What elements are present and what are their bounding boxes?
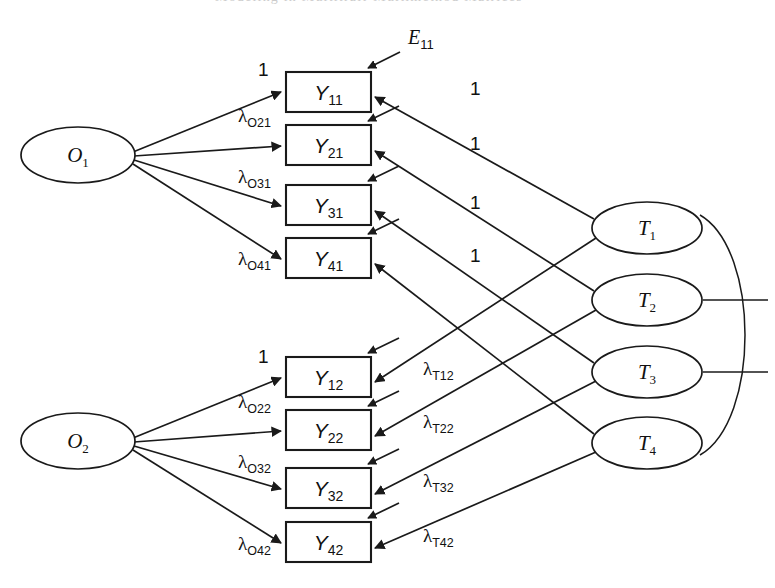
coef-occasion-o1-y21: λO21 — [238, 105, 271, 130]
coef-occasion-o2-y12: 1 — [258, 346, 269, 367]
latent-node-t4[interactable]: T4 — [592, 417, 702, 469]
manifest-node-y42[interactable]: Y42 — [286, 522, 371, 562]
coef-trait-t1-y12: λT12 — [423, 358, 454, 383]
path-o1-y21 — [134, 146, 281, 156]
sem-path-diagram: O1O2T1T2T3T4 Y11Y21Y31Y41Y12Y22Y32Y42 1λ… — [0, 0, 775, 588]
error-arrow-y42 — [368, 503, 399, 518]
path-t3-y31 — [375, 211, 594, 363]
path-t3-y32 — [375, 381, 596, 494]
coef-occasion-o2-y32: λO32 — [238, 451, 271, 476]
manifest-node-y32[interactable]: Y32 — [286, 468, 371, 508]
path-o2-y22 — [134, 431, 281, 442]
coef-occasion-o1-y31: λO31 — [238, 166, 271, 191]
manifest-node-y41[interactable]: Y41 — [286, 238, 371, 278]
manifest-variable-nodes: Y11Y21Y31Y41Y12Y22Y32Y42 — [286, 72, 371, 562]
error-arrow-y41 — [368, 219, 399, 234]
error-arrow-y31 — [368, 166, 399, 181]
coef-occasion-o1-y41: λO41 — [238, 248, 271, 273]
manifest-node-y21[interactable]: Y21 — [286, 125, 371, 165]
error-arrows — [368, 52, 400, 518]
manifest-node-y31[interactable]: Y31 — [286, 185, 371, 225]
latent-node-o2[interactable]: O2 — [21, 413, 135, 469]
path-t1-y11 — [375, 97, 594, 219]
coef-trait-t2-y22: λT22 — [423, 411, 454, 436]
error-arrow-y22 — [368, 391, 399, 406]
coef-trait-t3-y31: 1 — [470, 192, 481, 213]
coef-trait-t1-y11: 1 — [470, 78, 481, 99]
latent-node-t1[interactable]: T1 — [592, 202, 702, 254]
coef-trait-t2-y21: 1 — [470, 133, 481, 154]
coef-trait-t3-y32: λT32 — [423, 470, 454, 495]
figure-canvas: Modeling in Multitrait-Multimethod Matri… — [0, 0, 775, 588]
error-arrow-y11 — [368, 52, 400, 68]
covariance-arc-t1-t4 — [700, 215, 745, 455]
manifest-node-y11[interactable]: Y11 — [286, 72, 371, 112]
path-t4-y42 — [375, 452, 596, 548]
path-t2-y21 — [375, 151, 594, 291]
coef-occasion-o1-y11: 1 — [258, 59, 269, 80]
error-label-group: E11 — [407, 26, 434, 52]
coef-trait-t4-y42: λT42 — [423, 525, 454, 550]
error-arrow-y21 — [368, 106, 399, 121]
trait-covariance-group — [700, 215, 768, 455]
path-t1-y12 — [375, 238, 596, 382]
error-arrow-y12 — [368, 338, 399, 353]
manifest-node-y12[interactable]: Y12 — [286, 357, 371, 397]
path-t4-y41 — [375, 264, 594, 434]
manifest-node-y22[interactable]: Y22 — [286, 410, 371, 450]
latent-node-t3[interactable]: T3 — [592, 346, 702, 398]
latent-node-t2[interactable]: T2 — [592, 274, 702, 326]
path-t2-y22 — [375, 310, 596, 436]
trait-loading-paths — [375, 97, 596, 548]
error-label-e11: E11 — [407, 26, 434, 52]
latent-node-o1[interactable]: O1 — [21, 127, 135, 183]
coef-occasion-o2-y42: λO42 — [238, 533, 271, 558]
coef-occasion-o2-y22: λO22 — [238, 391, 271, 416]
error-arrow-y32 — [368, 449, 399, 464]
coef-trait-t4-y41: 1 — [470, 245, 481, 266]
